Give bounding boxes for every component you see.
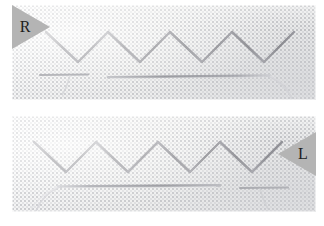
- corner-label-r: R: [12, 5, 50, 49]
- photo-sheet: R: [0, 0, 324, 226]
- image-subject: Herringbone embroidery stitch worked in …: [0, 0, 1, 1]
- corner-label-r-text: R: [12, 5, 38, 49]
- panel-bottom-caption: Left-handed herringbone sample, mirror i…: [0, 0, 1, 1]
- corner-label-l: L: [278, 132, 316, 176]
- stitch-panel-top: R: [12, 5, 316, 100]
- corner-label-l-text: L: [290, 132, 316, 176]
- panel-top-caption: Right-handed herringbone sample, needle …: [0, 0, 1, 1]
- stitch-panel-bottom: L: [12, 116, 316, 212]
- stitch-illustration-bottom: [12, 116, 316, 212]
- stitch-illustration-top: [12, 5, 316, 100]
